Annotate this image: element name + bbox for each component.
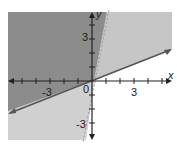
y-tick-label-3: 3 bbox=[82, 31, 88, 43]
x-tick-label-3: 3 bbox=[131, 86, 137, 98]
x-axis-label: x bbox=[167, 69, 174, 81]
y-tick-label-neg3: -3 bbox=[76, 118, 86, 130]
origin-label: 0 bbox=[83, 83, 89, 95]
inequality-graph: y x 3 -3 -3 3 0 bbox=[0, 0, 177, 147]
x-tick-label-neg3: -3 bbox=[42, 86, 52, 98]
